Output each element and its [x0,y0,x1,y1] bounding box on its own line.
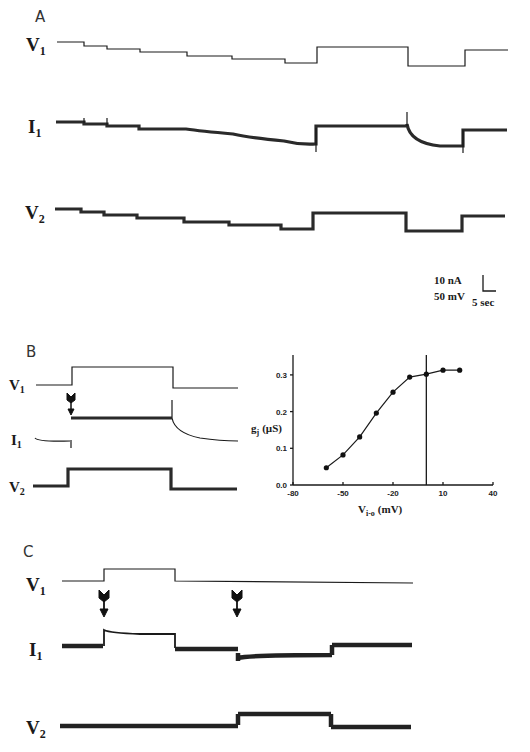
electrophysiology-figure: A V1 I1 V2 10 nA 50 mV 5 sec B V1 I1 V2 [0,0,530,752]
panel-letter-b: B [26,343,36,361]
label-v1: V1 [26,34,46,58]
gj-voltage-chart: 0.00.10.20.3 -80-50-201040 gj(µS) Vi-o(m… [251,355,498,518]
data-point [440,368,445,373]
trace-c-v2 [60,714,411,727]
trace-a-v1 [57,42,508,66]
arrow-down-icon [232,590,242,617]
panel-b: B V1 I1 V2 0.00.10.20.3 -80-50-201040 gj… [9,343,498,518]
gj-points [324,368,463,471]
x-axis-label: Vi-o(mV) [358,503,403,518]
y-tick-label: 0.0 [276,481,288,490]
scale-time: 5 sec [472,296,494,308]
y-tick-label: 0.3 [276,371,288,380]
y-tick-label: 0.2 [276,408,288,417]
x-tick-label: 40 [489,489,498,498]
x-tick-label: -20 [387,489,399,498]
y-tick-label: 0.1 [276,444,288,453]
trace-a-i1-transients [84,112,463,153]
label-v2: V2 [25,202,45,226]
trace-b-v2 [33,469,237,489]
data-point [324,465,329,470]
label-v2: V2 [26,717,46,741]
data-point [424,372,429,377]
arrow-down-icon [99,590,109,617]
data-point [340,452,345,457]
trace-b-i1-decay [35,400,238,448]
x-tick-label: -80 [287,489,299,498]
scale-voltage: 50 mV [434,290,465,302]
arrow-down-icon [67,393,75,415]
data-point [357,434,362,439]
panel-letter-a: A [35,8,46,26]
y-axis-label: gj(µS) [251,422,282,437]
trace-b-v1 [36,367,238,388]
label-v1: V1 [9,377,25,395]
trace-a-i1 [56,122,507,146]
label-i1: I1 [29,639,42,663]
data-point [374,410,379,415]
scale-bar-lines [483,275,496,291]
scale-bar: 10 nA 50 mV 5 sec [434,274,496,308]
panel-a: A V1 I1 V2 10 nA 50 mV 5 sec [25,8,508,308]
trace-c-i1-transient [104,630,175,648]
panel-letter-c: C [23,543,33,561]
trace-c-i1 [62,645,412,661]
gj-curve [326,370,459,468]
label-v1: V1 [26,574,46,598]
x-tick-label: -50 [337,489,349,498]
trace-c-v1 [62,569,413,583]
label-i1: I1 [11,432,22,450]
x-tick-label: 10 [439,489,448,498]
data-point [457,368,462,373]
panel-c: C V1 I1 V2 [23,543,413,741]
scale-current: 10 nA [434,274,462,286]
label-i1: I1 [28,116,41,140]
label-v2: V2 [9,479,25,497]
data-point [407,375,412,380]
trace-a-v2 [55,209,505,231]
data-point [390,390,395,395]
